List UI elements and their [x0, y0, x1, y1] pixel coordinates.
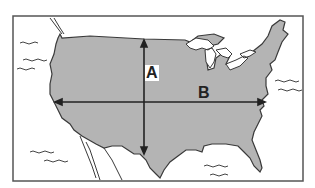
label-b: B: [197, 85, 211, 101]
label-a: A: [145, 65, 159, 81]
us-map-svg: [0, 0, 315, 188]
